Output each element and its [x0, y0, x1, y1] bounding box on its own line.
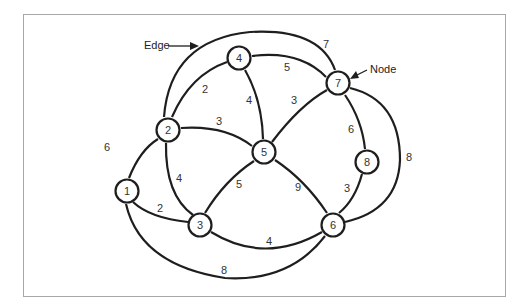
weight-4-5: 4 — [246, 94, 252, 106]
weight-1-6: 8 — [221, 264, 227, 276]
node-7-label: 7 — [335, 77, 341, 89]
edge-2-5 — [181, 128, 252, 146]
weight-2-7: 7 — [323, 38, 329, 50]
node-8-label: 8 — [364, 156, 370, 168]
callout-edge-text: Edge — [144, 39, 170, 51]
weight-8-6: 3 — [344, 182, 350, 194]
callout-node-text: Node — [370, 63, 396, 75]
node-2[interactable]: 2 — [157, 119, 180, 142]
arrow-left-icon — [350, 71, 359, 79]
edge-1-2 — [129, 139, 158, 178]
weight-1-2: 6 — [104, 141, 110, 153]
node-1[interactable]: 1 — [116, 180, 139, 203]
weight-5-7: 3 — [291, 94, 297, 106]
weight-2-3: 4 — [176, 172, 182, 184]
node-3-label: 3 — [197, 219, 203, 231]
node-4-label: 4 — [236, 52, 242, 64]
node-5[interactable]: 5 — [253, 141, 276, 164]
weight-4-7: 5 — [284, 61, 290, 73]
node-6[interactable]: 6 — [322, 214, 345, 237]
node-6-label: 6 — [330, 219, 336, 231]
weight-7-6: 8 — [406, 151, 412, 163]
weight-1-3: 2 — [157, 202, 163, 214]
callout-edge: Edge — [144, 39, 199, 51]
edge-2-4 — [172, 62, 227, 117]
node-4[interactable]: 4 — [228, 47, 251, 70]
edge-3-5 — [205, 161, 254, 213]
weight-3-5: 5 — [236, 178, 242, 190]
weight-5-6: 9 — [295, 181, 301, 193]
weight-3-6: 4 — [266, 235, 272, 247]
weight-2-5: 3 — [216, 115, 222, 127]
node-2-label: 2 — [165, 124, 171, 136]
weight-7-8: 6 — [348, 123, 354, 135]
node-3[interactable]: 3 — [189, 214, 212, 237]
weight-2-4: 2 — [202, 83, 208, 95]
edge-5-7 — [272, 90, 327, 142]
edge-8-6 — [339, 174, 362, 213]
node-8[interactable]: 8 — [356, 151, 379, 174]
node-7[interactable]: 7 — [327, 72, 350, 95]
edge-7-8 — [345, 95, 365, 149]
node-5-label: 5 — [261, 146, 267, 158]
graph-canvas: 6 2 8 4 2 3 7 5 4 4 5 3 9 6 3 8 1 2 3 4 — [0, 0, 526, 308]
node-1-label: 1 — [124, 185, 130, 197]
callout-node: Node — [350, 63, 396, 79]
